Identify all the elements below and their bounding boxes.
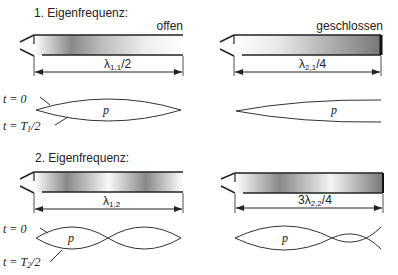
- time-label-t-half-period: t = T2/2: [3, 255, 40, 270]
- closed-end-label: geschlossen: [316, 19, 383, 33]
- pipe-closed-mode-2: [221, 173, 383, 193]
- time-label-t0: t = 0: [3, 92, 26, 106]
- section-2-title: 2. Eigenfrequenz:: [35, 151, 129, 165]
- eigenfrequency-diagram: 1. Eigenfrequenz: offen λ1,1/2 p t = 0 t…: [0, 0, 398, 275]
- time-label-t-half-period: t = T1/2: [3, 119, 40, 134]
- dimension-label-1-2: λ1,2: [103, 194, 121, 209]
- section-1-title: 1. Eigenfrequenz:: [34, 6, 128, 20]
- mouthpiece-icon: [220, 35, 234, 42]
- dimension-label-2-2: 3λ2,2/4: [298, 193, 332, 208]
- mouthpiece-icon: [20, 35, 34, 42]
- wave-label-p: p: [330, 103, 337, 117]
- time-label-t0: t = 0: [3, 222, 26, 236]
- pressure-wave-2-2: [235, 226, 381, 250]
- pressure-wave-2-1: [236, 100, 381, 122]
- pipe-closed-mode-1: [220, 35, 381, 56]
- pipe-open-mode-2: [20, 172, 183, 193]
- pressure-wave-1-2: [36, 227, 181, 262]
- dimension-label-1-1: λ1,1/2: [104, 57, 131, 72]
- wave-label-p: p: [102, 103, 109, 117]
- pipe-open-mode-1: [20, 35, 183, 56]
- mouthpiece-icon: [221, 173, 235, 179]
- dimension-label-2-1: λ2,1/4: [299, 57, 326, 72]
- wave-label-p: p: [281, 231, 288, 245]
- mouthpiece-icon: [20, 172, 34, 179]
- open-end-label: offen: [157, 19, 183, 33]
- wave-label-p: p: [67, 231, 74, 245]
